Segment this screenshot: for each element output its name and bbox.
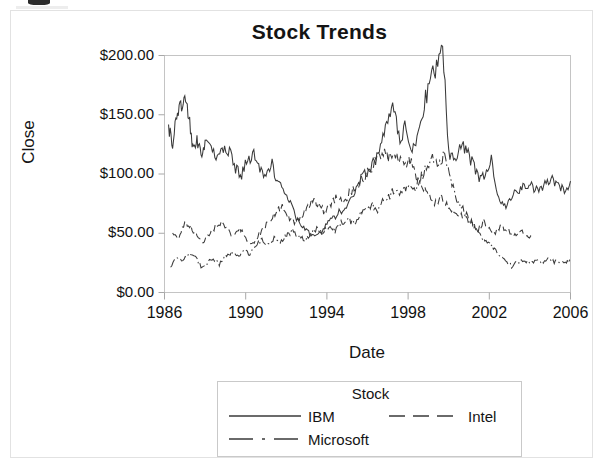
stock-trends-chart: Stock Trends Close Date $0.00$50.00$100.… — [0, 0, 603, 466]
legend-title: Stock — [218, 385, 523, 402]
x-tick-label: 1986 — [130, 304, 200, 322]
x-tick-label: 1998 — [373, 304, 443, 322]
legend-swatch-microsoft — [229, 433, 301, 445]
legend-label-intel: Intel — [468, 408, 496, 425]
legend-swatch-intel — [389, 410, 461, 422]
x-tick-label: 1994 — [292, 304, 362, 322]
legend-item-ibm[interactable]: IBM — [229, 407, 335, 425]
legend-swatch-ibm — [229, 410, 301, 422]
legend-item-microsoft[interactable]: Microsoft — [229, 430, 369, 448]
x-tick-label: 2002 — [454, 304, 524, 322]
legend-label-ibm: IBM — [308, 408, 335, 425]
x-tick-label: 2006 — [536, 304, 603, 322]
x-tick-label: 1990 — [211, 304, 281, 322]
legend-label-microsoft: Microsoft — [308, 431, 369, 448]
legend-item-intel[interactable]: Intel — [389, 407, 496, 425]
legend: Stock IBM Intel Microsoft — [217, 381, 522, 457]
